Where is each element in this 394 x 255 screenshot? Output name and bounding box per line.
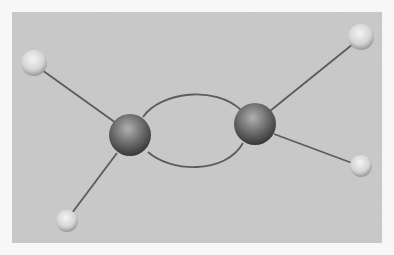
- molecular-model-photo: [0, 0, 394, 255]
- large-sphere-left: [109, 114, 151, 156]
- small-sphere-top-left: [21, 50, 47, 76]
- small-sphere-bottom-left: [56, 210, 78, 232]
- large-sphere-right: [234, 103, 276, 145]
- small-sphere-bottom-right: [350, 155, 372, 177]
- photo-frame: [0, 0, 394, 255]
- small-sphere-top-right: [348, 24, 374, 50]
